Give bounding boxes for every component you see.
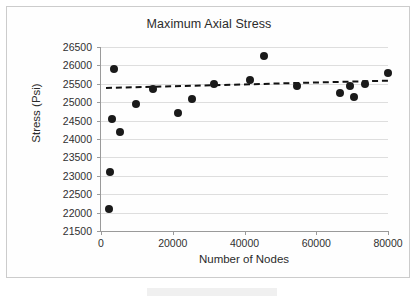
data-point: [346, 82, 354, 90]
data-point: [149, 85, 157, 93]
y-gridline: [101, 213, 388, 214]
y-tick-label: 23000: [46, 170, 92, 182]
x-tick-mark: [101, 231, 102, 235]
x-tick-label: 80000: [358, 237, 418, 249]
data-point: [110, 65, 118, 73]
y-tick-label: 22500: [46, 188, 92, 200]
x-tick-label: 0: [71, 237, 131, 249]
data-point: [361, 80, 369, 88]
data-point: [260, 52, 268, 60]
x-tick-label: 40000: [215, 237, 275, 249]
y-tick-label: 25000: [46, 96, 92, 108]
y-tick-mark: [97, 213, 101, 214]
data-point: [210, 80, 218, 88]
plot-area: 2150022000225002300023500240002450025000…: [100, 47, 388, 232]
y-tick-label: 25500: [46, 78, 92, 90]
y-gridline: [101, 157, 388, 158]
data-point: [105, 205, 113, 213]
y-tick-mark: [97, 139, 101, 140]
data-point: [132, 100, 140, 108]
data-point: [246, 76, 254, 84]
data-point: [350, 93, 358, 101]
x-tick-mark: [316, 231, 317, 235]
y-gridline: [101, 65, 388, 66]
y-tick-label: 24000: [46, 133, 92, 145]
y-tick-mark: [97, 65, 101, 66]
x-tick-mark: [245, 231, 246, 235]
y-tick-label: 26000: [46, 59, 92, 71]
y-tick-label: 24500: [46, 115, 92, 127]
y-tick-mark: [97, 102, 101, 103]
y-tick-label: 26500: [46, 41, 92, 53]
data-point: [384, 69, 392, 77]
caption-strip: [147, 288, 277, 296]
y-tick-label: 23500: [46, 151, 92, 163]
y-tick-mark: [97, 47, 101, 48]
chart-title: Maximum Axial Stress: [7, 17, 411, 31]
y-tick-mark: [97, 194, 101, 195]
x-axis-title: Number of Nodes: [100, 253, 388, 265]
data-point: [293, 82, 301, 90]
y-tick-mark: [97, 121, 101, 122]
y-tick-label: 21500: [46, 225, 92, 237]
y-gridline: [101, 194, 388, 195]
y-tick-mark: [97, 157, 101, 158]
y-gridline: [101, 139, 388, 140]
x-tick-label: 60000: [286, 237, 346, 249]
y-tick-mark: [97, 84, 101, 85]
x-tick-mark: [388, 231, 389, 235]
y-gridline: [101, 176, 388, 177]
x-tick-mark: [173, 231, 174, 235]
data-point: [116, 128, 124, 136]
y-tick-label: 22000: [46, 207, 92, 219]
y-tick-mark: [97, 176, 101, 177]
x-tick-label: 20000: [143, 237, 203, 249]
y-axis-title: Stress (Psi): [30, 33, 42, 193]
chart-container: Maximum Axial Stress Stress (Psi) Number…: [6, 6, 410, 278]
y-gridline: [101, 121, 388, 122]
data-point: [174, 109, 182, 117]
data-point: [336, 89, 344, 97]
y-gridline: [101, 102, 388, 103]
y-gridline: [101, 47, 388, 48]
